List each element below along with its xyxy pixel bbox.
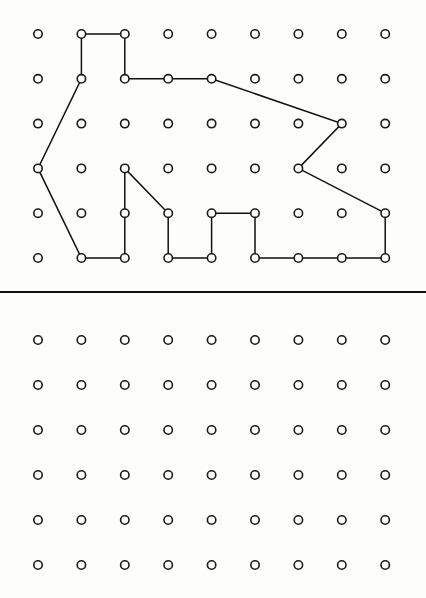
bottom-geoboard-canvas[interactable] (0, 300, 426, 598)
peg-dot-icon[interactable] (207, 119, 215, 127)
peg-dot-icon[interactable] (381, 516, 389, 524)
peg-dot-icon[interactable] (164, 75, 172, 83)
peg-dot-icon[interactable] (251, 119, 259, 127)
peg-dot-icon[interactable] (338, 30, 346, 38)
peg-dot-icon[interactable] (338, 381, 346, 389)
peg-dot-icon[interactable] (77, 471, 85, 479)
peg-dot-icon[interactable] (77, 164, 85, 172)
peg-dot-icon[interactable] (251, 164, 259, 172)
peg-dot-icon[interactable] (338, 209, 346, 217)
peg-dot-icon[interactable] (164, 30, 172, 38)
peg-dot-icon[interactable] (294, 75, 302, 83)
peg-dot-icon[interactable] (381, 426, 389, 434)
peg-dot-icon[interactable] (121, 119, 129, 127)
peg-dot-icon[interactable] (381, 336, 389, 344)
peg-dot-icon[interactable] (294, 381, 302, 389)
peg-dot-icon[interactable] (251, 561, 259, 569)
peg-dot-icon[interactable] (164, 471, 172, 479)
peg-dot-icon[interactable] (164, 254, 172, 262)
peg-dot-icon[interactable] (77, 561, 85, 569)
peg-dot-icon[interactable] (121, 381, 129, 389)
peg-dot-icon[interactable] (164, 381, 172, 389)
peg-dot-icon[interactable] (121, 30, 129, 38)
peg-dot-icon[interactable] (121, 471, 129, 479)
peg-dot-icon[interactable] (121, 336, 129, 344)
peg-dot-icon[interactable] (164, 561, 172, 569)
peg-dot-icon[interactable] (294, 471, 302, 479)
peg-dot-icon[interactable] (34, 119, 42, 127)
peg-dot-icon[interactable] (381, 254, 389, 262)
peg-dot-icon[interactable] (121, 561, 129, 569)
peg-dot-icon[interactable] (251, 30, 259, 38)
peg-dot-icon[interactable] (121, 426, 129, 434)
peg-dot-icon[interactable] (294, 164, 302, 172)
peg-dot-icon[interactable] (294, 30, 302, 38)
peg-dot-icon[interactable] (164, 209, 172, 217)
peg-dot-icon[interactable] (251, 381, 259, 389)
peg-dot-icon[interactable] (381, 471, 389, 479)
peg-dot-icon[interactable] (338, 75, 346, 83)
peg-dot-icon[interactable] (207, 75, 215, 83)
peg-dot-icon[interactable] (294, 336, 302, 344)
peg-dot-icon[interactable] (164, 426, 172, 434)
peg-dot-icon[interactable] (77, 336, 85, 344)
peg-dot-icon[interactable] (164, 164, 172, 172)
peg-dot-icon[interactable] (34, 336, 42, 344)
peg-dot-icon[interactable] (77, 30, 85, 38)
peg-dot-icon[interactable] (251, 209, 259, 217)
peg-dot-icon[interactable] (381, 381, 389, 389)
peg-dot-icon[interactable] (294, 561, 302, 569)
peg-dot-icon[interactable] (121, 75, 129, 83)
peg-dot-icon[interactable] (294, 119, 302, 127)
peg-dot-icon[interactable] (251, 254, 259, 262)
peg-dot-icon[interactable] (207, 254, 215, 262)
peg-dot-icon[interactable] (338, 164, 346, 172)
peg-dot-icon[interactable] (34, 516, 42, 524)
peg-dot-icon[interactable] (77, 381, 85, 389)
peg-dot-icon[interactable] (207, 209, 215, 217)
peg-dot-icon[interactable] (338, 561, 346, 569)
peg-dot-icon[interactable] (121, 209, 129, 217)
bottom-geoboard[interactable] (0, 300, 426, 598)
peg-dot-icon[interactable] (77, 119, 85, 127)
rubber-band-polygon[interactable] (38, 34, 385, 258)
peg-dot-icon[interactable] (121, 516, 129, 524)
peg-dot-icon[interactable] (121, 254, 129, 262)
peg-dot-icon[interactable] (207, 516, 215, 524)
peg-dot-icon[interactable] (77, 516, 85, 524)
peg-dot-icon[interactable] (381, 119, 389, 127)
peg-dot-icon[interactable] (121, 164, 129, 172)
peg-dot-icon[interactable] (338, 254, 346, 262)
peg-dot-icon[interactable] (207, 30, 215, 38)
peg-dot-icon[interactable] (381, 561, 389, 569)
peg-dot-icon[interactable] (34, 75, 42, 83)
peg-dot-icon[interactable] (77, 254, 85, 262)
peg-dot-icon[interactable] (77, 426, 85, 434)
peg-dot-icon[interactable] (338, 336, 346, 344)
peg-dot-icon[interactable] (34, 561, 42, 569)
peg-dot-icon[interactable] (164, 336, 172, 344)
peg-dot-icon[interactable] (77, 209, 85, 217)
peg-dot-icon[interactable] (207, 426, 215, 434)
peg-dot-icon[interactable] (207, 381, 215, 389)
peg-dot-icon[interactable] (251, 516, 259, 524)
peg-dot-icon[interactable] (381, 75, 389, 83)
peg-dot-icon[interactable] (207, 471, 215, 479)
peg-dot-icon[interactable] (251, 75, 259, 83)
peg-dot-icon[interactable] (207, 336, 215, 344)
peg-dot-icon[interactable] (34, 164, 42, 172)
peg-dot-icon[interactable] (251, 336, 259, 344)
peg-dot-icon[interactable] (77, 75, 85, 83)
peg-dot-icon[interactable] (381, 209, 389, 217)
peg-dot-icon[interactable] (164, 516, 172, 524)
peg-dot-icon[interactable] (34, 209, 42, 217)
peg-dot-icon[interactable] (207, 561, 215, 569)
peg-dot-icon[interactable] (338, 471, 346, 479)
peg-dot-icon[interactable] (34, 426, 42, 434)
peg-dot-icon[interactable] (164, 119, 172, 127)
peg-dot-icon[interactable] (34, 381, 42, 389)
peg-dot-icon[interactable] (251, 471, 259, 479)
peg-dot-icon[interactable] (34, 254, 42, 262)
peg-dot-icon[interactable] (294, 209, 302, 217)
peg-dot-icon[interactable] (34, 471, 42, 479)
